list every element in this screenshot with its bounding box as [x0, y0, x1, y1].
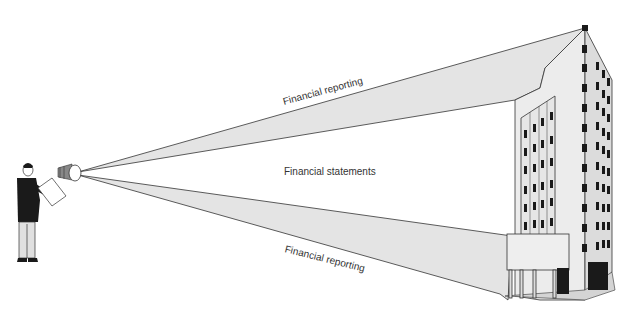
entrance-door: [557, 268, 569, 294]
top-beam: [78, 28, 585, 172]
clipboard: [38, 178, 66, 206]
center-label: Financial statements: [284, 166, 376, 177]
diagram-canvas: [0, 0, 630, 318]
telescope: [58, 164, 81, 181]
entrance-canopy: [507, 234, 569, 270]
bottom-beam: [78, 175, 512, 300]
financial-reporting-diagram: Financial reporting Financial statements…: [0, 0, 630, 318]
person-with-clipboard: [17, 163, 66, 262]
